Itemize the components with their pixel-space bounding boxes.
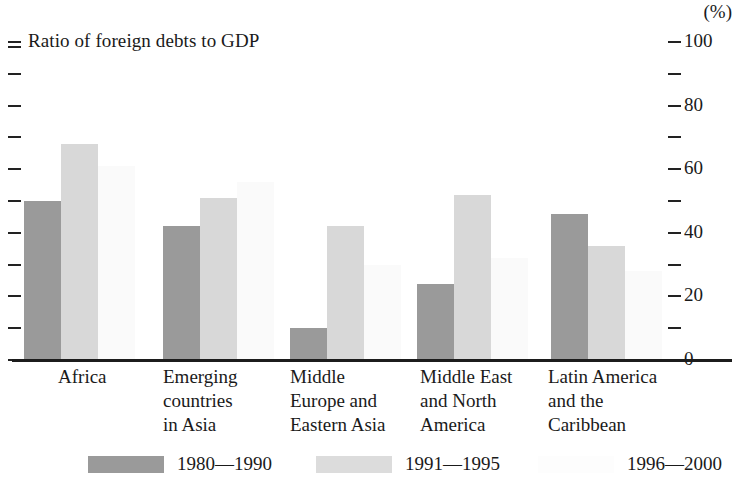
bar-chart-figure: Ratio of foreign debts to GDP (%) 100806…: [0, 0, 744, 481]
y-tick-left-20: [8, 295, 21, 297]
white-swatch: [538, 456, 614, 473]
bar: [491, 258, 528, 360]
legend-label: 1980—1990: [177, 453, 272, 475]
bar: [327, 226, 364, 360]
y-minor-tick-left-90: [8, 73, 21, 75]
bar: [61, 144, 98, 360]
bar: [454, 195, 491, 360]
legend-item[interactable]: 1980—1990: [88, 452, 272, 476]
plot-area: [24, 42, 672, 360]
title-dash-marker: [8, 46, 21, 48]
y-tick-label-100: 100: [684, 31, 732, 50]
bar-group: [24, 42, 135, 360]
y-tick-left-100: [8, 41, 21, 43]
legend-label: 1991—1995: [405, 453, 500, 475]
category-label: Emerging countries in Asia: [163, 365, 238, 437]
legend-item[interactable]: 1991—1995: [316, 452, 500, 476]
bar-group: [551, 42, 662, 360]
bar: [200, 198, 237, 360]
bar: [98, 166, 135, 360]
bar: [551, 214, 588, 360]
x-axis-category-labels: AfricaEmerging countries in AsiaMiddle E…: [0, 365, 744, 455]
bar: [24, 201, 61, 360]
category-label: Middle East and North America: [420, 365, 512, 437]
y-tick-left-80: [8, 105, 21, 107]
bar-group: [290, 42, 401, 360]
dark-gray-swatch: [88, 456, 164, 473]
legend-item[interactable]: 1996—2000: [538, 452, 722, 476]
bar: [588, 246, 625, 360]
category-label: Africa: [58, 365, 107, 389]
bar-group: [163, 42, 274, 360]
y-tick-label-80: 80: [684, 95, 732, 114]
y-tick-label-40: 40: [684, 222, 732, 241]
bar: [417, 284, 454, 360]
y-minor-tick-left-10: [8, 327, 21, 329]
bar: [625, 271, 662, 360]
bar: [163, 226, 200, 360]
y-tick-left-40: [8, 232, 21, 234]
y-minor-tick-left-70: [8, 136, 21, 138]
category-label: Latin America and the Caribbean: [548, 365, 657, 437]
y-axis-unit-label: (%): [704, 1, 732, 23]
bar: [237, 182, 274, 360]
y-tick-left-60: [8, 168, 21, 170]
legend-label: 1996—2000: [627, 453, 722, 475]
y-tick-label-20: 20: [684, 285, 732, 304]
y-tick-label-60: 60: [684, 158, 732, 177]
bar: [364, 265, 401, 360]
y-minor-tick-left-30: [8, 264, 21, 266]
chart-legend: 1980—19901991—19951996—2000: [0, 452, 744, 480]
x-axis-baseline: [12, 359, 732, 362]
bar: [290, 328, 327, 360]
bar-group: [417, 42, 528, 360]
y-minor-tick-left-50: [8, 200, 21, 202]
category-label: Middle Europe and Eastern Asia: [290, 365, 386, 437]
light-gray-swatch: [316, 456, 392, 473]
